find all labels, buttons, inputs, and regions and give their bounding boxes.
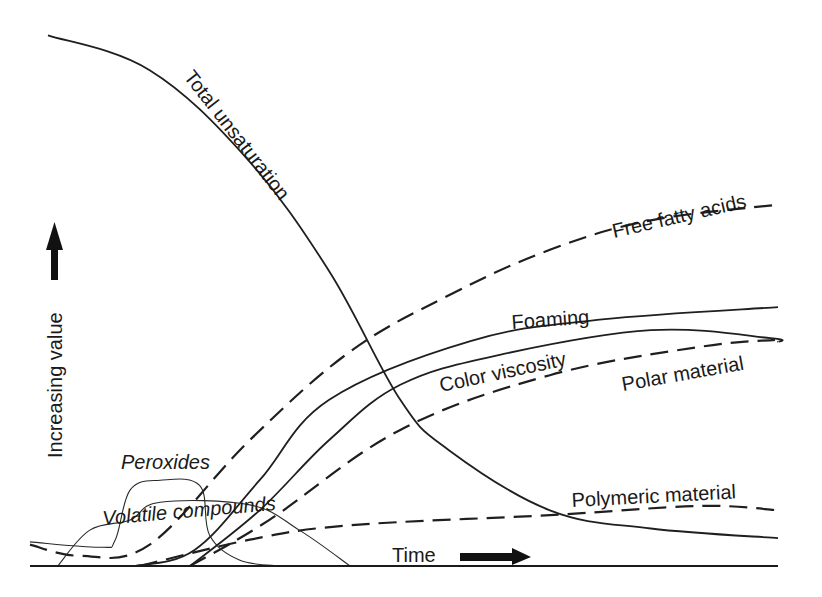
y-axis-label: Increasing value bbox=[44, 312, 66, 458]
label-peroxides: Peroxides bbox=[121, 451, 210, 473]
chart: Increasing value Time Total unsaturation… bbox=[0, 0, 822, 597]
label-volatile-compounds: Volatile compounds bbox=[101, 492, 276, 529]
label-foaming: Foaming bbox=[511, 306, 590, 333]
label-free-fatty-acids: Free fatty acids bbox=[610, 190, 748, 242]
label-total-unsaturation: Total unsaturation bbox=[180, 66, 295, 204]
right-arrow-icon bbox=[460, 548, 531, 565]
x-axis-label: Time bbox=[392, 544, 436, 566]
curve-foaming bbox=[135, 307, 778, 566]
up-arrow-icon bbox=[46, 222, 63, 280]
label-polar-material: Polar material bbox=[620, 352, 745, 395]
